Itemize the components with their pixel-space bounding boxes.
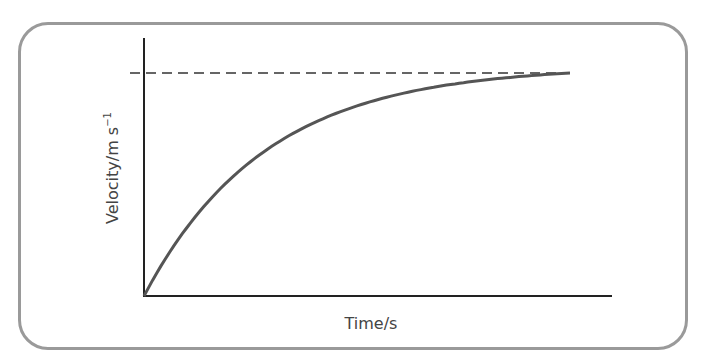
y-axis-label: Velocity/m s−1 bbox=[102, 112, 121, 224]
velocity-curve bbox=[144, 73, 570, 296]
x-axis-label: Time/s bbox=[345, 314, 398, 333]
